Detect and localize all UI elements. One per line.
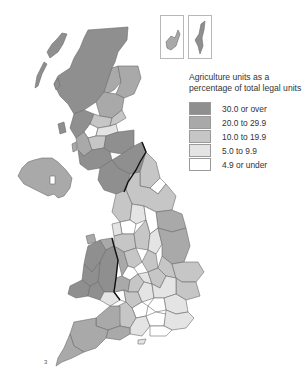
legend-swatch — [189, 158, 211, 171]
legend-item: 20.0 to 29.9 — [189, 116, 304, 130]
orkney-map — [161, 16, 183, 58]
legend-label: 20.0 to 29.9 — [222, 118, 266, 128]
legend-title-line1: Agriculture units as a — [189, 72, 304, 83]
region-west-yorks — [130, 204, 146, 224]
region-northern-ireland — [18, 158, 72, 198]
legend-items: 30.0 or over 20.0 to 29.9 10.0 to 19.9 5… — [189, 102, 304, 172]
inset-shetland — [188, 15, 212, 59]
region-london — [148, 298, 166, 312]
legend-swatch — [189, 102, 211, 115]
region-surrey — [146, 312, 166, 326]
legend-item: 30.0 or over — [189, 102, 304, 116]
region-somerset — [96, 306, 120, 330]
region-manchester — [120, 220, 136, 234]
uk-choropleth-map — [0, 0, 304, 370]
region-arran — [72, 142, 77, 152]
legend-label: 30.0 or over — [222, 104, 267, 114]
region-isle-of-wight — [138, 339, 146, 344]
legend-label: 4.9 or under — [222, 160, 267, 170]
region-merseyside — [112, 222, 122, 236]
legend-item: 5.0 to 9.9 — [189, 144, 304, 158]
region-western-isles — [47, 33, 67, 58]
region-ni-belfast — [50, 176, 55, 184]
legend-item: 10.0 to 19.9 — [189, 130, 304, 144]
shetland-map — [189, 16, 211, 58]
legend-label: 10.0 to 19.9 — [222, 132, 266, 142]
legend-swatch — [189, 144, 211, 157]
region-western-isles-south — [35, 62, 47, 88]
legend: Agriculture units as a percentage of tot… — [189, 72, 304, 172]
legend-label: 5.0 to 9.9 — [222, 146, 257, 156]
legend-title-line2: percentage of total legal units — [189, 83, 304, 94]
region-islay — [58, 122, 66, 134]
legend-swatch — [189, 116, 211, 129]
legend-title: Agriculture units as a percentage of tot… — [189, 72, 304, 94]
footnote-marker: 3 — [44, 359, 47, 365]
inset-orkney — [160, 15, 184, 59]
legend-item: 4.9 or under — [189, 158, 304, 172]
legend-swatch — [189, 130, 211, 143]
